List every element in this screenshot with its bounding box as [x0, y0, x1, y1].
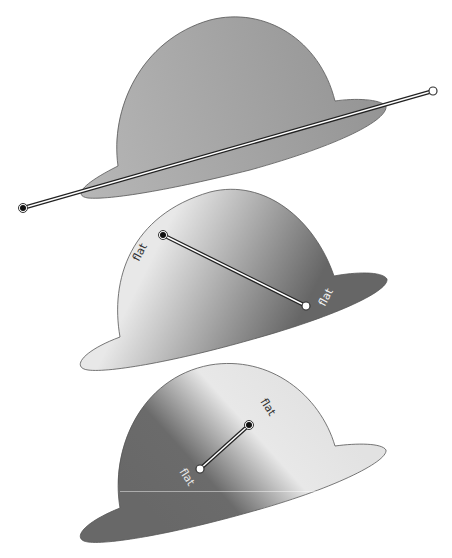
start-point-3-icon[interactable] [245, 421, 254, 430]
hat-3 [80, 363, 386, 542]
end-point-2-icon[interactable] [302, 302, 310, 310]
start-point-2-icon[interactable] [159, 231, 168, 240]
end-point-1-icon[interactable] [429, 87, 437, 95]
hat-2-shape [80, 189, 387, 370]
hat-1-shape [81, 17, 386, 198]
gradient-diagram: flat flat flat flat [0, 0, 452, 558]
scan-artifact-line [120, 491, 338, 492]
hat-2 [80, 189, 387, 370]
end-point-3-icon[interactable] [196, 465, 204, 473]
start-point-1-icon[interactable] [19, 204, 28, 213]
hat-1 [81, 17, 386, 198]
hat-3-shape [80, 363, 386, 542]
